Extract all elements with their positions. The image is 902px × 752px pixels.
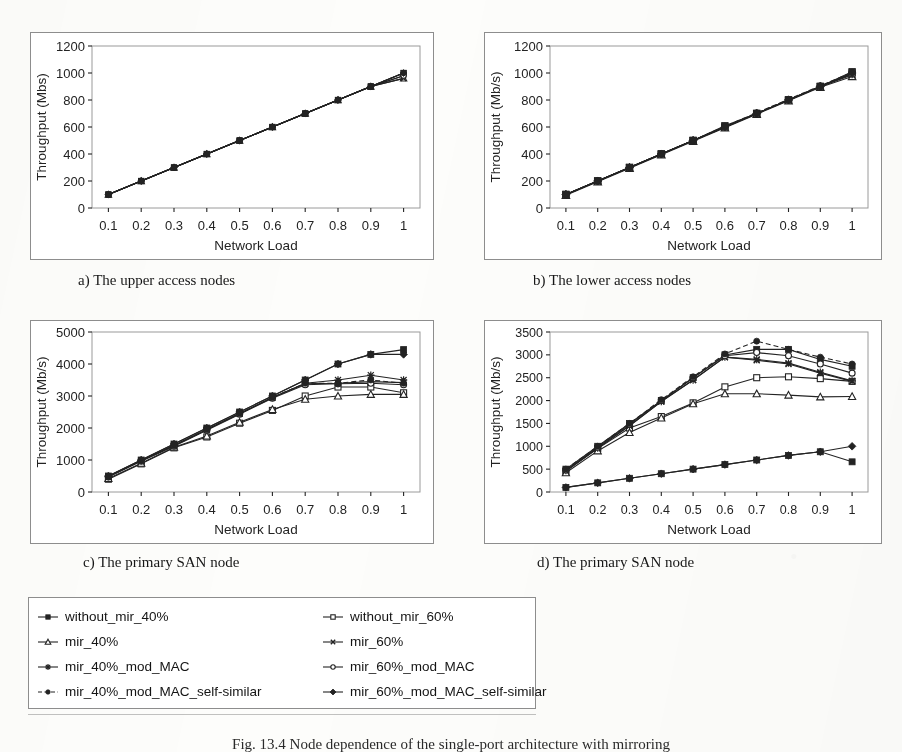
svg-text:0.2: 0.2 bbox=[132, 218, 150, 233]
legend-box: without_mir_40%without_mir_60%mir_40%mir… bbox=[28, 597, 536, 709]
svg-text:600: 600 bbox=[521, 120, 543, 135]
legend-marker-icon bbox=[37, 686, 59, 698]
legend-item[interactable]: mir_40%_mod_MAC bbox=[37, 659, 322, 674]
svg-text:0.3: 0.3 bbox=[165, 502, 183, 517]
subcaption-c: c) The primary SAN node bbox=[83, 554, 239, 571]
legend-marker-icon bbox=[322, 636, 344, 648]
svg-text:2000: 2000 bbox=[515, 394, 543, 408]
svg-text:0.7: 0.7 bbox=[748, 503, 765, 517]
svg-text:0.9: 0.9 bbox=[811, 218, 829, 233]
figure-page: x T y Tr A 17 0200400600800100012000.10.… bbox=[0, 0, 902, 752]
svg-text:0.4: 0.4 bbox=[198, 502, 216, 517]
legend-marker-icon bbox=[37, 636, 59, 648]
svg-text:200: 200 bbox=[63, 174, 85, 189]
svg-text:0.3: 0.3 bbox=[620, 218, 638, 233]
legend-item-label: mir_60% bbox=[350, 634, 403, 649]
svg-text:1500: 1500 bbox=[515, 417, 543, 431]
svg-text:800: 800 bbox=[521, 93, 543, 108]
svg-text:0.9: 0.9 bbox=[362, 502, 380, 517]
chart-plot-c: 0100020003000400050000.10.20.30.40.50.60… bbox=[30, 320, 434, 544]
svg-text:2000: 2000 bbox=[56, 421, 85, 436]
svg-text:0.5: 0.5 bbox=[231, 218, 249, 233]
svg-text:0: 0 bbox=[78, 485, 85, 500]
svg-text:0.7: 0.7 bbox=[296, 218, 314, 233]
svg-text:0.6: 0.6 bbox=[716, 218, 734, 233]
subcaption-a: a) The upper access nodes bbox=[78, 272, 235, 289]
svg-text:1: 1 bbox=[849, 503, 856, 517]
legend-marker-icon bbox=[37, 661, 59, 673]
svg-text:0.1: 0.1 bbox=[99, 502, 117, 517]
svg-text:0.5: 0.5 bbox=[684, 503, 701, 517]
svg-text:0: 0 bbox=[536, 201, 543, 216]
legend-item-label: mir_40%_mod_MAC bbox=[65, 659, 190, 674]
legend-item-label: mir_60%_mod_MAC bbox=[350, 659, 475, 674]
svg-text:0.1: 0.1 bbox=[557, 218, 575, 233]
svg-text:0.3: 0.3 bbox=[165, 218, 183, 233]
svg-text:3000: 3000 bbox=[515, 348, 543, 362]
svg-text:0.8: 0.8 bbox=[780, 503, 797, 517]
svg-text:0: 0 bbox=[536, 486, 543, 500]
svg-text:0.3: 0.3 bbox=[621, 503, 638, 517]
legend-item[interactable]: mir_60%_mod_MAC_self-similar bbox=[322, 684, 547, 699]
svg-text:600: 600 bbox=[63, 120, 85, 135]
svg-text:1200: 1200 bbox=[56, 39, 85, 54]
svg-text:0.7: 0.7 bbox=[296, 502, 314, 517]
svg-text:0.8: 0.8 bbox=[329, 218, 347, 233]
svg-text:0.1: 0.1 bbox=[99, 218, 117, 233]
svg-text:Network Load: Network Load bbox=[214, 522, 297, 537]
chart-plot-d: 05001000150020002500300035000.10.20.30.4… bbox=[484, 320, 882, 544]
svg-text:1000: 1000 bbox=[56, 453, 85, 468]
svg-text:Throughput (Mbs): Throughput (Mbs) bbox=[34, 73, 49, 180]
svg-text:Network Load: Network Load bbox=[667, 522, 750, 537]
svg-text:0.8: 0.8 bbox=[779, 218, 797, 233]
legend-marker-icon bbox=[322, 686, 344, 698]
svg-text:3000: 3000 bbox=[56, 389, 85, 404]
figure-caption: Fig. 13.4 Node dependence of the single-… bbox=[0, 736, 902, 752]
svg-text:0.7: 0.7 bbox=[748, 218, 766, 233]
subcaption-d: d) The primary SAN node bbox=[537, 554, 694, 571]
svg-text:Throughput (Mb/s): Throughput (Mb/s) bbox=[488, 356, 503, 467]
svg-text:2500: 2500 bbox=[515, 371, 543, 385]
svg-text:800: 800 bbox=[63, 93, 85, 108]
svg-text:200: 200 bbox=[521, 174, 543, 189]
svg-text:3500: 3500 bbox=[515, 326, 543, 340]
svg-text:0.1: 0.1 bbox=[557, 503, 574, 517]
chart-panel-c: 0100020003000400050000.10.20.30.40.50.60… bbox=[30, 320, 434, 544]
svg-text:0.5: 0.5 bbox=[684, 218, 702, 233]
svg-text:Network Load: Network Load bbox=[667, 238, 750, 253]
svg-text:0.2: 0.2 bbox=[589, 218, 607, 233]
legend-item[interactable]: mir_60%_mod_MAC bbox=[322, 659, 547, 674]
chart-panel-d: 05001000150020002500300035000.10.20.30.4… bbox=[484, 320, 882, 544]
svg-text:1: 1 bbox=[848, 218, 855, 233]
legend-underline bbox=[28, 714, 536, 715]
chart-panel-a: 0200400600800100012000.10.20.30.40.50.60… bbox=[30, 32, 434, 260]
svg-text:0.9: 0.9 bbox=[812, 503, 829, 517]
svg-text:1: 1 bbox=[400, 502, 407, 517]
legend-item[interactable]: without_mir_40% bbox=[37, 609, 322, 624]
svg-text:0.6: 0.6 bbox=[263, 502, 281, 517]
svg-text:1: 1 bbox=[400, 218, 407, 233]
svg-text:0.5: 0.5 bbox=[231, 502, 249, 517]
legend-item[interactable]: mir_60% bbox=[322, 634, 547, 649]
legend-item[interactable]: mir_40%_mod_MAC_self-similar bbox=[37, 684, 322, 699]
subcaption-b: b) The lower access nodes bbox=[533, 272, 691, 289]
svg-text:0.4: 0.4 bbox=[653, 503, 670, 517]
svg-text:1000: 1000 bbox=[514, 66, 543, 81]
svg-text:Network Load: Network Load bbox=[214, 238, 297, 253]
svg-text:1200: 1200 bbox=[514, 39, 543, 54]
legend-grid: without_mir_40%without_mir_60%mir_40%mir… bbox=[29, 598, 535, 708]
svg-text:0.8: 0.8 bbox=[329, 502, 347, 517]
svg-text:0.6: 0.6 bbox=[716, 503, 733, 517]
chart-panel-b: 0200400600800100012000.10.20.30.40.50.60… bbox=[484, 32, 882, 260]
svg-text:500: 500 bbox=[522, 463, 543, 477]
svg-text:1000: 1000 bbox=[56, 66, 85, 81]
legend-marker-icon bbox=[322, 611, 344, 623]
svg-text:400: 400 bbox=[521, 147, 543, 162]
legend-item[interactable]: without_mir_60% bbox=[322, 609, 547, 624]
legend-marker-icon bbox=[322, 661, 344, 673]
svg-text:1000: 1000 bbox=[515, 440, 543, 454]
svg-text:0.4: 0.4 bbox=[652, 218, 670, 233]
svg-text:0.2: 0.2 bbox=[589, 503, 606, 517]
legend-item[interactable]: mir_40% bbox=[37, 634, 322, 649]
legend-item-label: mir_40% bbox=[65, 634, 118, 649]
